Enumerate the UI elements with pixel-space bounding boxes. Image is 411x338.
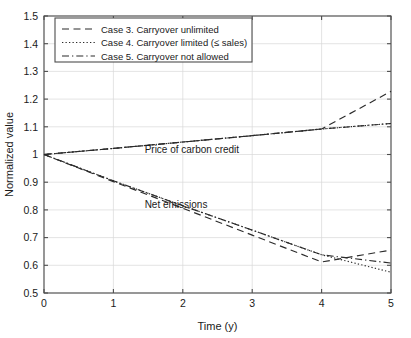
- y-tick-label: 0.8: [23, 204, 38, 216]
- series-line: [44, 155, 391, 273]
- x-tick-label: 5: [388, 297, 394, 309]
- chart-figure: 0.50.60.70.80.911.11.21.31.41.5 012345 P…: [0, 0, 411, 338]
- y-tick-label: 0.6: [23, 259, 38, 271]
- y-tick-label: 1: [32, 148, 38, 160]
- series-line: [44, 155, 391, 264]
- y-tick-labels: 0.50.60.70.80.911.11.21.31.41.5: [23, 10, 38, 299]
- y-tick-label: 1.3: [23, 65, 38, 77]
- legend-item-label[interactable]: Case 3. Carryover unlimited: [101, 24, 219, 35]
- plot-annotation: Net emissions: [145, 199, 208, 210]
- x-tick-label: 2: [180, 297, 186, 309]
- chart-legend[interactable]: Case 3. Carryover unlimitedCase 4. Carry…: [55, 18, 252, 62]
- legend-item-label[interactable]: Case 5. Carryover not allowed: [101, 51, 229, 62]
- x-tick-labels: 012345: [41, 297, 394, 309]
- x-tick-label: 3: [249, 297, 255, 309]
- y-tick-label: 0.9: [23, 176, 38, 188]
- y-axis-title: Normalized value: [3, 112, 15, 197]
- plot-annotations: Price of carbon creditNet emissions: [145, 144, 240, 210]
- y-tick-label: 0.5: [23, 287, 38, 299]
- y-tick-label: 1.1: [23, 121, 38, 133]
- data-series-group: [44, 91, 391, 272]
- x-axis-title: Time (y): [198, 320, 238, 332]
- legend-item-label[interactable]: Case 4. Carryover limited (≤ sales): [101, 37, 247, 48]
- x-tick-label: 4: [319, 297, 325, 309]
- line-chart: 0.50.60.70.80.911.11.21.31.41.5 012345 P…: [0, 0, 411, 338]
- y-tick-label: 1.5: [23, 10, 38, 22]
- y-tick-label: 1.2: [23, 93, 38, 105]
- y-tick-label: 0.7: [23, 231, 38, 243]
- plot-annotation: Price of carbon credit: [145, 144, 240, 155]
- x-tick-label: 1: [110, 297, 116, 309]
- series-line: [44, 155, 391, 262]
- x-tick-label: 0: [41, 297, 47, 309]
- y-tick-label: 1.4: [23, 38, 38, 50]
